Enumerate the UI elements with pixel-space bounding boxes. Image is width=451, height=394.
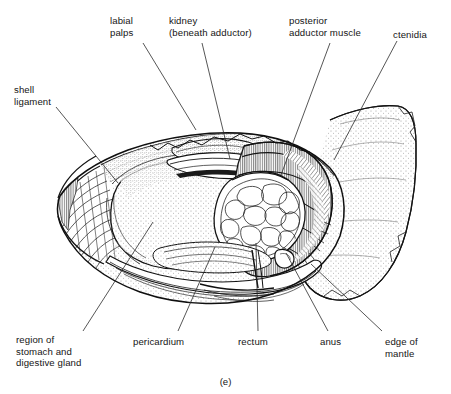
label-posterior-adductor-muscle: posterior adductor muscle	[289, 15, 361, 38]
label-edge-of-mantle: edge of mantle	[385, 336, 418, 359]
leader-labial-palps	[143, 43, 196, 130]
label-region-of-stomach-and-digestive-gland: region of stomach and digestive gland	[16, 334, 81, 369]
drawing-ink	[56, 41, 416, 331]
label-labial-palps: labial palps	[110, 15, 133, 38]
label-kidney: kidney (beneath adductor)	[169, 15, 252, 38]
label-shell-ligament: shell ligament	[14, 84, 51, 107]
label-anus: anus	[320, 336, 341, 348]
label-rectum: rectum	[238, 336, 268, 348]
figure-page: shell ligament labial palps kidney (bene…	[0, 0, 451, 394]
label-ctenidia: ctenidia	[393, 29, 427, 41]
figure-caption: (e)	[0, 376, 451, 387]
label-pericardium: pericardium	[133, 336, 184, 348]
